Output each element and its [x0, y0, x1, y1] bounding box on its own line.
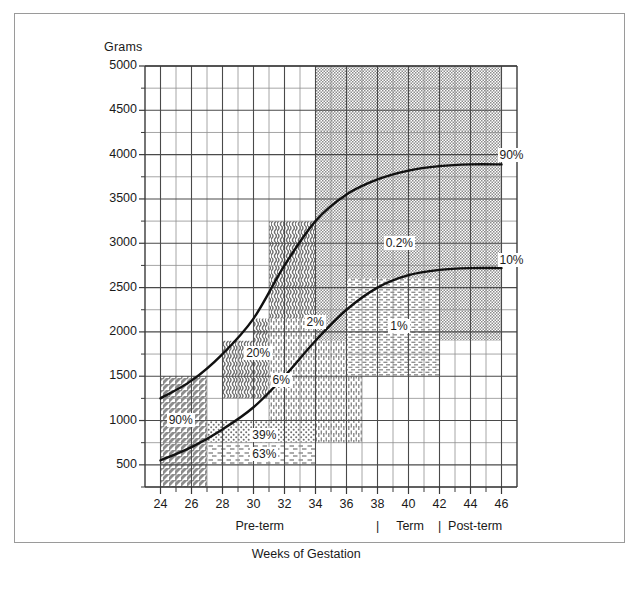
y-tick-label: 3500 — [91, 191, 137, 205]
region-percent-label: 1% — [388, 319, 409, 333]
x-sublabel: Pre-term — [215, 519, 305, 533]
curve-end-label: 90% — [498, 148, 526, 162]
region-percent-label: 63% — [250, 447, 278, 461]
x-subdivider-mark: | — [358, 519, 398, 533]
y-axis-title: Grams — [104, 40, 143, 54]
y-tick-label: 1500 — [91, 368, 137, 382]
y-tick-label: 500 — [91, 457, 137, 471]
region-percent-label: 90% — [167, 413, 195, 427]
y-tick-label: 2000 — [91, 324, 137, 338]
y-tick-label: 4500 — [91, 102, 137, 116]
region-percent-label: 20% — [244, 346, 272, 360]
region-percent-label: 6% — [271, 373, 292, 387]
y-tick-label: 3000 — [91, 235, 137, 249]
y-tick-label: 5000 — [91, 58, 137, 72]
chart-canvas — [145, 66, 517, 487]
curve-end-label: 10% — [498, 253, 526, 267]
y-tick-label: 4000 — [91, 147, 137, 161]
region-90%-diagonal-hatch — [161, 376, 208, 487]
plot-area: 90%20%6%2%1%0.2%39%63% 90%10% — [145, 66, 517, 487]
y-tick-label: 1000 — [91, 413, 137, 427]
chart-page: Grams 5001000150020002500300035004000450… — [0, 0, 641, 604]
region-percent-label: 2% — [305, 315, 326, 329]
x-tick-label: 46 — [482, 497, 522, 511]
region-percent-label: 39% — [250, 428, 278, 442]
x-subdivider-mark: | — [420, 519, 460, 533]
y-tick-label: 2500 — [91, 280, 137, 294]
x-axis-title: Weeks of Gestation — [216, 547, 396, 561]
region-percent-label: 0.2% — [384, 236, 415, 250]
